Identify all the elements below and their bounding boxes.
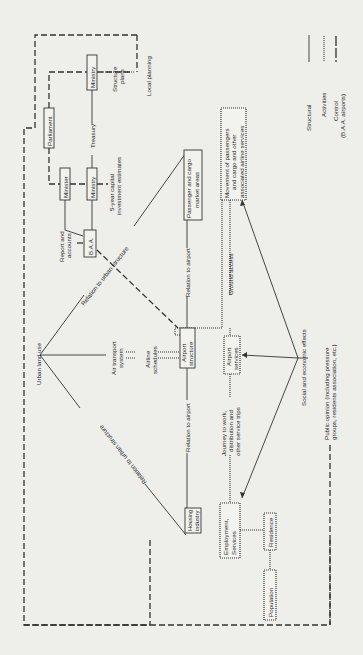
airport-structure-label-1: Airport [180, 343, 187, 362]
social-economic-label: Social and economic effects [300, 329, 307, 406]
housing-industry-node: Housing industry [185, 508, 201, 533]
report-accounts-label-1: Report and [58, 231, 65, 262]
structure-plans-label-2: plans [118, 69, 125, 84]
local-planning-label: Local planning [145, 56, 152, 96]
ground-access-label: Ground access [227, 253, 234, 295]
residence-label: Residence [267, 517, 274, 547]
journey-label-3: other service trips [234, 407, 241, 456]
airline-schedules-label-2: schedules [151, 346, 158, 374]
public-opinion-label-2: groups, residents association, etc.) [330, 344, 337, 440]
passenger-cargo-label-1: Passenger and cargo [185, 159, 192, 218]
ministry-top-label: Ministry [89, 66, 96, 88]
baa-label: B.A.A. [87, 237, 94, 255]
capital-estimates-label-2: investment estimates [115, 157, 122, 215]
public-opinion-label-1: Public opinion (including pressure [323, 347, 330, 440]
treasury-label: Treasury [89, 123, 96, 148]
structure-plans-label-1: Structure [111, 66, 118, 92]
airport-services-node: Airport services [224, 336, 240, 374]
minister-node: Minister [60, 168, 70, 200]
legend-control-label-1: Control [332, 101, 339, 121]
relation-airport-upper-label: Relation to airport [184, 248, 191, 297]
parliament-node: Parliament [44, 108, 54, 148]
housing-industry-label-1: Housing [187, 510, 193, 531]
capital-estimates-label-1: 5-year capital [108, 174, 115, 211]
air-transport-label-2: system [117, 348, 124, 368]
baa-node: B.A.A. [84, 230, 96, 257]
urban-land-use-label: Urban land use [35, 342, 42, 385]
airport-planning-diagram: Parliament Ministry Minister Ministry B.… [0, 0, 363, 655]
structural-lines [40, 90, 308, 535]
report-accounts-label-2: accounts [65, 233, 72, 258]
relation-urban-lower-label: Relation to urban structure [97, 423, 148, 485]
residence-node: Residence [264, 513, 276, 550]
ministry-top-node: Ministry [87, 55, 97, 90]
airline-schedules-label-1: Airline [144, 350, 151, 368]
parliament-label: Parliament [46, 116, 53, 146]
population-label: Population [267, 587, 274, 617]
airport-structure-node: Airport structure [180, 328, 195, 368]
airport-services-label-1: Airport [225, 347, 232, 366]
movement-label-3: associated airline services [238, 126, 245, 198]
legend-structural-label: Structural [305, 105, 312, 131]
passenger-cargo-label-2: market areas [193, 172, 200, 208]
passenger-cargo-node: Passenger and cargo market areas [184, 150, 202, 220]
legend-activities-label: Activities [320, 93, 327, 117]
airport-services-label-2: services [232, 347, 239, 370]
legend: Structural Activities Control (B.A.A. ai… [305, 35, 346, 138]
minister-label: Minister [62, 176, 69, 198]
legend-control-label-2: (B.A.A. airports) [339, 94, 346, 138]
journey-label-2: distribution and [227, 409, 234, 452]
movement-label-2: and cargo and other [230, 135, 237, 190]
airport-structure-label-2: structure [187, 341, 194, 366]
relation-airport-lower-label: Relation to airport [184, 403, 191, 452]
ministry-mid-label: Ministry [89, 176, 96, 198]
free-labels: Urban land use Air transport system Airl… [35, 56, 337, 540]
employment-services-node: Employment, Services [220, 503, 240, 558]
air-transport-label-1: Air transport [110, 341, 117, 375]
population-node: Population [264, 570, 276, 620]
movement-label-1: Movement of passengers [223, 129, 230, 198]
journey-label-1: Journey to work, [220, 410, 227, 456]
employment-services-label-2: Services [230, 531, 237, 555]
ministry-mid-node: Ministry [87, 168, 97, 200]
movement-node: Movement of passengers and cargo and oth… [221, 108, 246, 200]
employment-services-label-1: Employment, [222, 519, 229, 555]
control-lines [24, 35, 330, 625]
housing-industry-label-2: industry [194, 511, 200, 531]
